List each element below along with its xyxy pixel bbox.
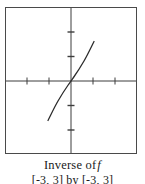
plot-area bbox=[5, 7, 137, 154]
caption-function-symbol: f bbox=[96, 158, 101, 172]
figure-inverse-of-f: Inverse off [-3, 3] by [-3, 3] bbox=[0, 0, 145, 184]
caption-viewing-window: [-3, 3] by [-3, 3] bbox=[0, 173, 145, 184]
graph-svg bbox=[5, 7, 137, 154]
caption-title-text: Inverse of bbox=[44, 158, 96, 172]
figure-caption: Inverse off [-3, 3] by [-3, 3] bbox=[0, 155, 145, 184]
caption-title: Inverse off bbox=[0, 155, 145, 173]
